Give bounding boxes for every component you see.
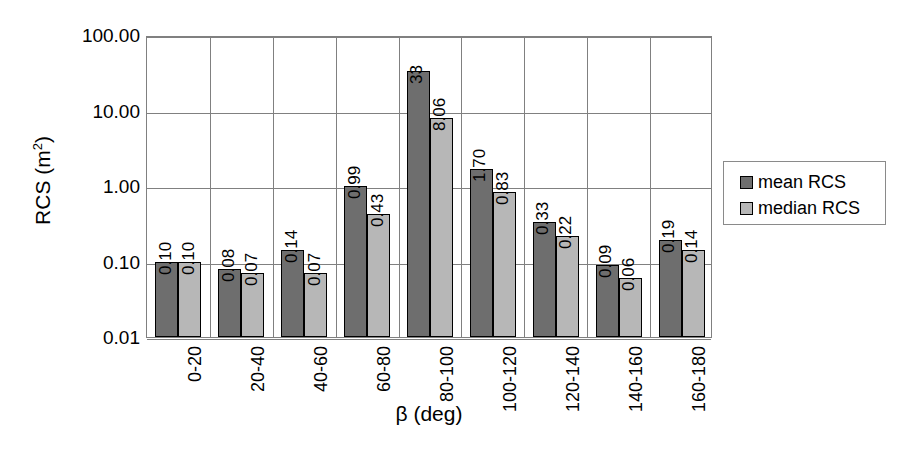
x-axis-tick-label: 0-20	[186, 346, 204, 382]
bar-group: 0.140.07	[273, 37, 336, 337]
legend-item-median-rcs: median RCS	[740, 196, 885, 220]
legend-swatch-median-rcs-icon	[740, 202, 753, 215]
bar-value-label: 0.09	[597, 245, 614, 278]
x-axis-tick-label: 60-80	[375, 346, 393, 392]
chart-legend: mean RCS median RCS	[723, 161, 886, 225]
bar-value-label: 1.70	[471, 149, 488, 182]
bar-group: 1.700.83	[461, 37, 524, 337]
bar-value-label: 0.33	[534, 202, 551, 235]
bar-value-label: 0.07	[243, 253, 260, 286]
legend-swatch-mean-rcs-icon	[740, 176, 753, 189]
y-axis-tick-label: 100.00	[60, 26, 140, 45]
bar-value-label: 0.10	[157, 241, 174, 274]
bar-mean-rcs	[281, 250, 304, 337]
bar-value-label: 0.19	[660, 220, 677, 253]
bar-group: 0.190.14	[650, 37, 713, 337]
bar-group: 0.080.07	[210, 37, 273, 337]
bar-value-label: 0.06	[620, 258, 637, 291]
y-axis-title-text: RCS (m	[31, 150, 54, 225]
bar-mean-rcs	[407, 71, 430, 337]
legend-item-mean-rcs: mean RCS	[740, 170, 885, 194]
rcs-bar-chart-figure: RCS (m2) 100.0010.001.000.100.01 0.100.1…	[0, 0, 918, 457]
x-axis-title: β (deg)	[146, 402, 712, 426]
bar-value-label: 0.14	[283, 230, 300, 263]
plot-area: 0.100.100.080.070.140.070.990.43338.061.…	[146, 36, 712, 338]
bar-group: 0.990.43	[336, 37, 399, 337]
bar-median-rcs	[556, 236, 579, 337]
y-axis-tick-label: 1.00	[60, 177, 140, 196]
bar-value-label: 0.07	[306, 253, 323, 286]
y-axis-title-superscript: 2	[30, 143, 45, 150]
bar-value-label: 8.06	[431, 97, 448, 130]
bar-value-label: 0.08	[220, 249, 237, 282]
y-axis-tick-label: 0.01	[60, 328, 140, 347]
y-axis-tick-labels: 100.0010.001.000.100.01	[60, 0, 140, 457]
bar-value-label: 0.14	[683, 230, 700, 263]
y-axis-title-close-paren: )	[31, 136, 54, 143]
bar-value-label: 0.99	[346, 166, 363, 199]
bar-group: 0.330.22	[524, 37, 587, 337]
y-axis-tick-label: 0.10	[60, 253, 140, 272]
x-axis-tick-label: 20-40	[249, 346, 267, 392]
bar-value-label: 33	[408, 65, 425, 84]
bar-mean-rcs	[659, 240, 682, 337]
bar-group: 0.100.10	[147, 37, 210, 337]
x-axis-tick-label: 80-100	[438, 346, 456, 402]
bar-group: 338.06	[399, 37, 462, 337]
bar-mean-rcs	[533, 222, 556, 337]
bar-value-label: 0.83	[494, 172, 511, 205]
y-axis-tick-label: 10.00	[60, 102, 140, 121]
bar-median-rcs	[367, 214, 390, 337]
legend-label-mean-rcs: mean RCS	[758, 173, 846, 191]
bar-value-label: 0.10	[180, 241, 197, 274]
y-axis-title: RCS (m2)	[30, 101, 55, 261]
x-axis-tick-label: 40-60	[312, 346, 330, 392]
bar-median-rcs	[493, 192, 516, 337]
bar-value-label: 0.43	[369, 194, 386, 227]
bar-median-rcs	[682, 250, 705, 337]
bar-mean-rcs	[344, 186, 367, 337]
bar-median-rcs	[430, 118, 453, 337]
bar-mean-rcs	[470, 169, 493, 337]
bar-group: 0.090.06	[587, 37, 650, 337]
legend-label-median-rcs: median RCS	[758, 199, 860, 217]
bar-value-label: 0.22	[557, 216, 574, 249]
